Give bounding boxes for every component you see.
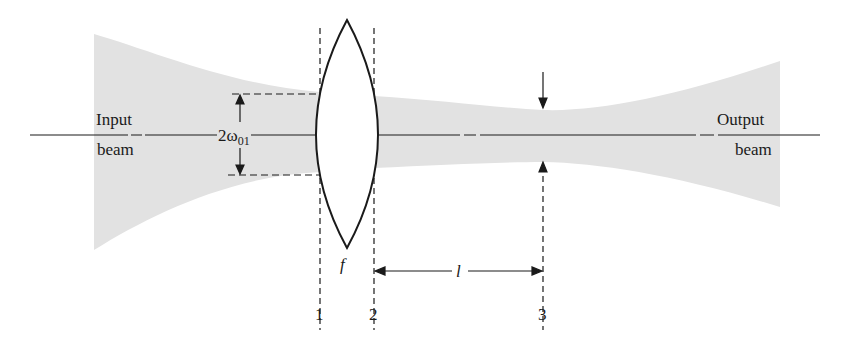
input-label-line1: Input [96,111,132,128]
plane-2-label: 2 [369,306,378,323]
input-waist-label: 2ω01 [217,127,251,144]
focal-length-label: f [340,256,345,273]
input-label-line2: beam [97,141,134,158]
plane-3-label: 3 [538,306,547,323]
output-label-line2: beam [735,141,772,158]
waist-symbol: 2ω [218,126,238,145]
biconvex-lens [316,20,378,248]
beam-focusing-diagram [0,0,848,343]
output-beam-shading [374,61,780,207]
output-label-line1: Output [717,111,764,128]
distance-label: l [456,263,461,280]
waist-subscript: 01 [238,134,250,148]
plane-1-label: 1 [315,306,324,323]
